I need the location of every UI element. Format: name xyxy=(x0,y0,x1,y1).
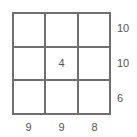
row-clue-1: 10 xyxy=(117,22,135,34)
row-clue-2: 10 xyxy=(117,57,135,69)
col-clue-2: 9 xyxy=(45,121,78,133)
grid-cell[interactable] xyxy=(78,47,110,81)
grid-cell[interactable] xyxy=(78,80,110,114)
grid-cell-given: 4 xyxy=(45,47,77,81)
grid-cell[interactable] xyxy=(13,47,45,81)
grid-cell[interactable] xyxy=(45,13,77,47)
col-clue-1: 9 xyxy=(12,121,45,133)
puzzle-grid: 4 xyxy=(12,12,111,115)
grid-cell[interactable] xyxy=(13,13,45,47)
grid-cell[interactable] xyxy=(13,80,45,114)
grid-cell[interactable] xyxy=(78,13,110,47)
col-clue-3: 8 xyxy=(78,121,111,133)
row-clue-3: 6 xyxy=(117,92,135,104)
grid-cell[interactable] xyxy=(45,80,77,114)
